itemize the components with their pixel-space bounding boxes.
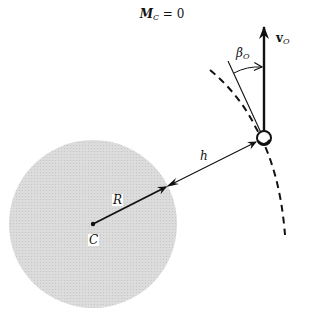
trajectory-dashed	[210, 70, 285, 235]
angle-subscript: O	[243, 52, 250, 61]
equation-rest: = 0	[159, 7, 184, 21]
radius-label: R	[112, 194, 123, 206]
angle-label: βO	[236, 47, 250, 61]
velocity-subscript: O	[283, 37, 290, 46]
moment-symbol: M	[140, 7, 153, 21]
orbital-diagram	[0, 0, 312, 323]
center-label: C	[88, 234, 99, 246]
altitude-arrowhead-inner	[166, 178, 179, 187]
velocity-label: vO	[276, 32, 290, 46]
beta-angle-arc	[234, 67, 262, 73]
altitude-label: h	[200, 150, 208, 162]
equation-title: MC = 0	[0, 8, 312, 22]
altitude-arrow	[172, 142, 256, 184]
angle-symbol: β	[236, 46, 243, 60]
tangent-line	[228, 61, 262, 135]
velocity-symbol: v	[276, 31, 283, 45]
